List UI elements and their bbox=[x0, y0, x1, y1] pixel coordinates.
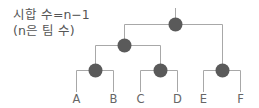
match-node-cd bbox=[154, 64, 168, 78]
team-label-a: A bbox=[73, 92, 81, 106]
match-node-ef bbox=[216, 64, 230, 78]
match-node-semifinal bbox=[118, 39, 132, 53]
match-node-final bbox=[169, 18, 183, 32]
bracket-lines bbox=[77, 8, 241, 92]
tournament-bracket bbox=[0, 0, 259, 108]
match-node-ab bbox=[89, 64, 103, 78]
team-label-e: E bbox=[200, 92, 207, 106]
team-label-c: C bbox=[136, 92, 144, 106]
team-label-f: F bbox=[237, 92, 244, 106]
team-label-b: B bbox=[110, 92, 118, 106]
match-nodes bbox=[89, 18, 230, 78]
team-label-d: D bbox=[173, 92, 182, 106]
